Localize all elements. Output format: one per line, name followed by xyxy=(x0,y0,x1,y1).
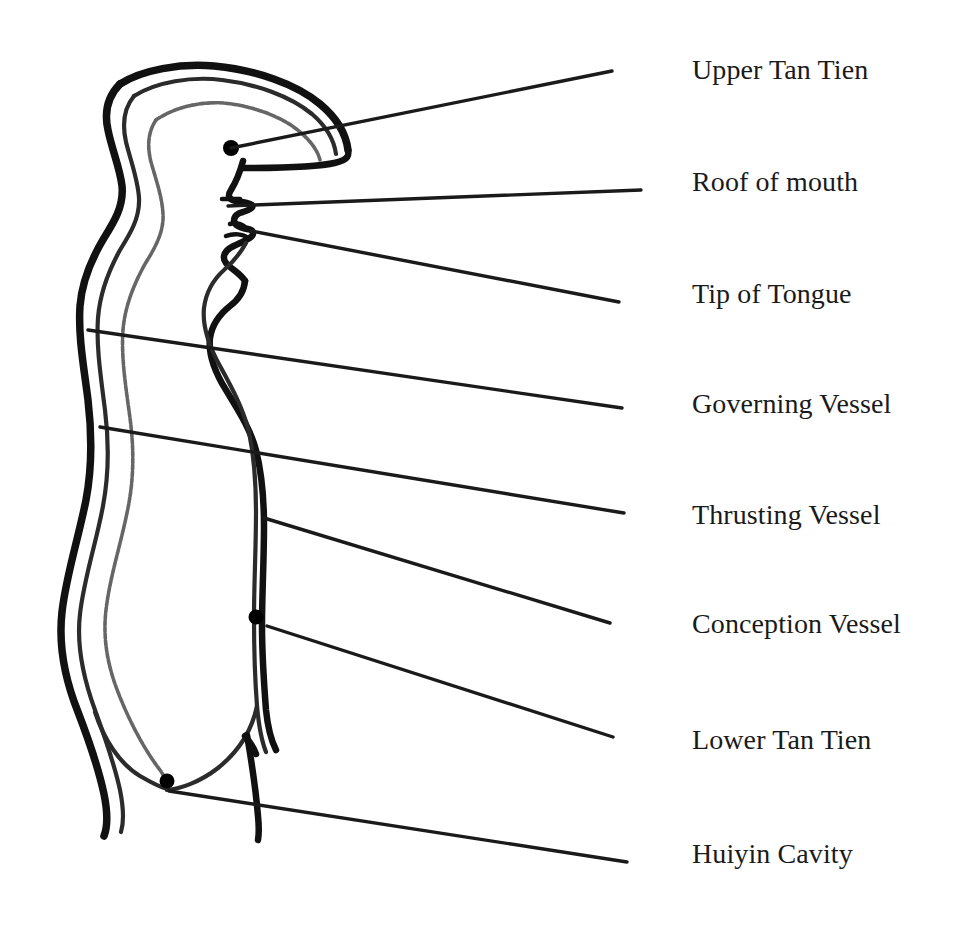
leader-governing-vessel xyxy=(88,330,622,408)
label-thrusting-vessel: Thrusting Vessel xyxy=(692,501,881,529)
body-outline-outer xyxy=(61,65,348,836)
diagram-canvas: Upper Tan Tien Roof of mouth Tip of Tong… xyxy=(0,0,959,937)
lower-limb-strokes xyxy=(245,735,259,840)
lower-tan-tien-marker xyxy=(249,610,264,625)
label-upper-tan-tien: Upper Tan Tien xyxy=(692,56,868,84)
label-conception-vessel: Conception Vessel xyxy=(692,610,901,638)
leader-roof-of-mouth xyxy=(228,190,641,206)
governing-vessel-line xyxy=(79,79,336,832)
leader-tip-of-tongue xyxy=(251,231,619,302)
label-roof-of-mouth: Roof of mouth xyxy=(692,168,858,196)
body-profile-illustration xyxy=(0,0,959,937)
leader-conception-vessel xyxy=(264,518,610,623)
leader-thrusting-vessel xyxy=(100,427,624,513)
leader-huiyin-cavity xyxy=(169,791,627,862)
label-huiyin-cavity: Huiyin Cavity xyxy=(692,840,853,868)
label-lower-tan-tien: Lower Tan Tien xyxy=(692,726,871,754)
label-governing-vessel: Governing Vessel xyxy=(692,390,891,418)
leader-lower-tan-tien xyxy=(267,626,613,737)
label-tip-of-tongue: Tip of Tongue xyxy=(692,280,852,308)
leader-lines xyxy=(88,71,641,862)
huiyin-marker xyxy=(160,774,175,789)
